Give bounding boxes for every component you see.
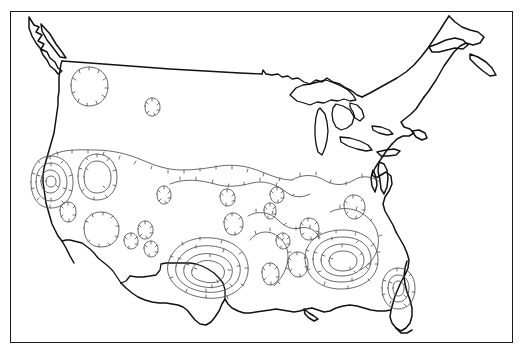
lake-erie — [340, 137, 372, 151]
coast-cape-cod — [412, 130, 427, 140]
coast-nova-scotia — [470, 54, 496, 76]
contour-panhandle-minor — [157, 186, 171, 204]
coast-louisiana-delta — [304, 309, 318, 321]
lake-michigan — [315, 108, 328, 155]
contour-colorado-minor — [138, 221, 153, 239]
contour-georgia-minor — [344, 195, 365, 219]
contour-group — [31, 67, 415, 309]
contour-map-svg — [0, 0, 525, 358]
coast-vancouver-island — [41, 24, 66, 58]
contour-pacific-northwest-montana — [71, 67, 108, 106]
contour-mid-south-minor — [300, 218, 319, 240]
contour-lower-mississippi — [250, 228, 291, 286]
contour-nebraska-minor — [220, 189, 235, 206]
coast-long-island — [377, 149, 400, 156]
coast-chesapeake — [371, 170, 377, 192]
coastline-group — [29, 16, 496, 333]
lake-superior — [290, 80, 356, 105]
contour-arizona-new-mexico — [84, 212, 119, 247]
contour-ohio-valley-minor — [270, 187, 284, 203]
contour-westtexas-minor — [124, 233, 138, 249]
lake-ontario — [372, 126, 393, 135]
lake-huron-georgian-bay — [350, 103, 364, 121]
coast-new-england — [392, 97, 424, 144]
contour-california-nevada — [31, 156, 73, 208]
border-mexico-step — [130, 263, 225, 299]
coast-lake-superior-north — [310, 78, 362, 97]
coast-st-lawrence — [362, 16, 449, 97]
border-mexico — [62, 240, 121, 283]
border-rio-grande — [121, 276, 130, 283]
coast-pacific — [43, 61, 62, 241]
contour-west-gulf-mid — [248, 209, 321, 238]
contour-newmexico-minor — [144, 241, 158, 257]
contour-great-basin — [78, 154, 117, 200]
contour-appalachian-outer — [292, 172, 380, 185]
map-page — [0, 0, 525, 358]
contour-oklahoma-minor — [224, 213, 243, 235]
coast-gulf — [121, 283, 391, 325]
contour-central-plains-minor — [145, 98, 160, 116]
contour-texas-gulf — [167, 237, 248, 299]
coast-delmarva — [378, 162, 388, 194]
border-lake-of-the-woods — [262, 70, 310, 84]
contour-gulf-minor — [262, 263, 279, 285]
coast-baja-north — [62, 241, 74, 263]
contour-southeast-gulf — [305, 230, 378, 289]
